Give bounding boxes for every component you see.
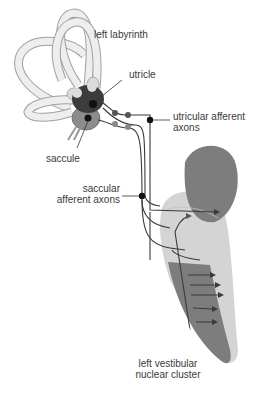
label-saccular: saccular (83, 183, 120, 194)
label-nucleus-line1: left vestibular (128, 358, 208, 369)
label-utricular-afferent: utricular afferent (173, 111, 245, 122)
label-utricle: utricle (129, 69, 156, 80)
label-saccule: saccule (46, 153, 80, 164)
label-saccular-afferent-axons: afferent axons (57, 194, 120, 205)
label-utricular-axons: axons (173, 122, 200, 133)
label-left-labyrinth: left labyrinth (94, 29, 148, 40)
label-nucleus-line2: nuclear cluster (128, 369, 208, 380)
vestibular-diagram (0, 0, 262, 397)
